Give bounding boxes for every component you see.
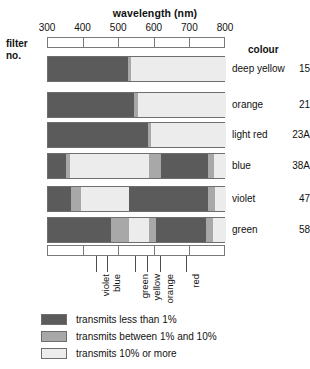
- axis-tick-mark: [83, 38, 84, 47]
- transmission-segment-low: [48, 123, 148, 147]
- filter-bar-row: [47, 56, 225, 82]
- transmission-segment-high: [213, 218, 226, 242]
- axis-tick-mark: [189, 38, 190, 47]
- filter-colour-label: green: [232, 217, 258, 243]
- filter-no-label: 58: [268, 217, 310, 243]
- legend-row: transmits between 1% and 10%: [41, 329, 281, 344]
- transmission-segment-low: [48, 218, 111, 242]
- filter-bar-row: [47, 122, 225, 148]
- filter-bar-track: [47, 153, 225, 179]
- filter-bar-row: [47, 92, 225, 118]
- legend-swatch-low: [41, 314, 67, 325]
- page-title: wavelength (nm): [0, 7, 310, 19]
- filter-bar-row: [47, 186, 225, 212]
- transmission-segment-mid: [149, 218, 156, 242]
- transmission-segment-mid: [208, 187, 215, 211]
- axis-tick-label: 400: [74, 22, 91, 33]
- filter-bar-track: [47, 122, 225, 148]
- filter-bar-row: [47, 153, 225, 179]
- transmission-segment-high: [81, 187, 129, 211]
- axis-tick-mark: [154, 246, 155, 255]
- axis-tick-mark: [118, 38, 119, 47]
- transmission-segment-high: [215, 187, 226, 211]
- colour-band-label: blue: [111, 274, 122, 292]
- transmission-segment-low: [156, 218, 206, 242]
- legend-row: transmits 10% or more: [41, 346, 281, 361]
- colour-band-tick: [147, 256, 148, 272]
- filter-bar-track: [47, 56, 225, 82]
- transmission-segment-mid: [71, 187, 81, 211]
- axis-tick-label: 600: [145, 22, 162, 33]
- transmission-segment-low: [48, 154, 66, 178]
- colour-band-label: red: [190, 274, 201, 288]
- filter-colour-label: deep yellow: [232, 56, 285, 82]
- bottom-axis-scale: [47, 245, 225, 256]
- colour-band-label: green: [139, 274, 150, 298]
- axis-tick-label: 300: [39, 22, 56, 33]
- filter-no-label: 23A: [268, 122, 310, 148]
- transmission-segment-high: [70, 154, 149, 178]
- legend-swatch-high: [41, 348, 67, 359]
- filter-bar-row: [47, 217, 225, 243]
- colour-band-tick: [96, 256, 97, 272]
- colour-band-label: violet: [100, 274, 111, 296]
- filter-colour-label: light red: [232, 122, 268, 148]
- transmission-segment-low: [48, 93, 134, 117]
- transmission-segment-low: [48, 187, 71, 211]
- legend-label: transmits less than 1%: [76, 314, 177, 325]
- filter-no-heading: filterno.: [6, 38, 28, 61]
- filter-bar-track: [47, 186, 225, 212]
- transmission-segment-high: [151, 123, 226, 147]
- transmission-segment-low: [129, 187, 208, 211]
- legend-swatch-mid: [41, 331, 67, 342]
- transmission-segment-mid: [206, 218, 213, 242]
- filter-no-label: 21: [268, 92, 310, 118]
- legend-label: transmits between 1% and 10%: [76, 331, 217, 342]
- axis-tick-label: 500: [110, 22, 127, 33]
- transmission-segment-low: [48, 57, 128, 81]
- transmission-segment-high: [214, 154, 226, 178]
- transmission-segment-low: [161, 154, 208, 178]
- filter-bar-track: [47, 92, 225, 118]
- transmission-segment-high: [131, 57, 226, 81]
- axis-tick-label: 700: [181, 22, 198, 33]
- axis-tick-mark: [189, 246, 190, 255]
- colour-band-ticks: violetbluegreenyelloworangered: [0, 256, 310, 302]
- colour-band-label: yellow: [151, 274, 162, 300]
- transmission-segment-mid: [111, 218, 129, 242]
- filter-colour-label: blue: [232, 153, 251, 179]
- transmission-segment-mid: [149, 154, 161, 178]
- transmission-segment-high: [129, 218, 149, 242]
- top-axis-tick-labels: 300400500600700800: [0, 22, 310, 35]
- transmission-segment-high: [138, 93, 226, 117]
- filter-colour-label: violet: [232, 186, 255, 212]
- colour-band-tick: [186, 256, 187, 272]
- axis-tick-label: 800: [217, 22, 234, 33]
- legend-label: transmits 10% or more: [76, 348, 177, 359]
- filter-bar-track: [47, 217, 225, 243]
- colour-band-tick: [160, 256, 161, 272]
- filter-no-label: 38A: [268, 153, 310, 179]
- filter-no-label: 47: [268, 186, 310, 212]
- colour-heading: colour: [248, 44, 279, 55]
- colour-band-tick: [135, 256, 136, 272]
- axis-tick-mark: [83, 246, 84, 255]
- axis-tick-mark: [118, 246, 119, 255]
- top-axis-scale: [47, 37, 225, 48]
- legend-row: transmits less than 1%: [41, 312, 281, 327]
- colour-band-label: orange: [164, 274, 175, 304]
- filter-colour-label: orange: [232, 92, 263, 118]
- legend: transmits less than 1%transmits between …: [41, 312, 281, 363]
- colour-band-tick: [107, 256, 108, 272]
- axis-tick-mark: [154, 38, 155, 47]
